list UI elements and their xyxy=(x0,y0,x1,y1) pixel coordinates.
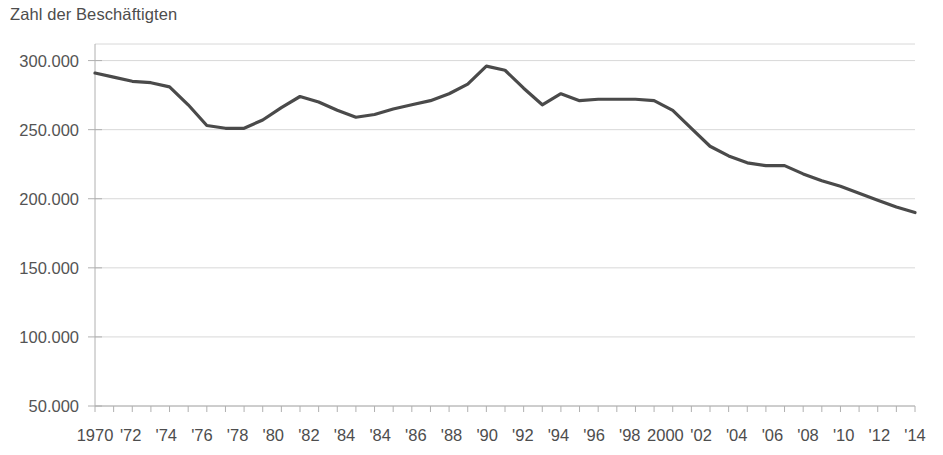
series-line xyxy=(95,66,915,212)
y-tick-label: 250.000 xyxy=(19,121,79,139)
y-tick-label: 50.000 xyxy=(29,397,79,415)
x-tick-label: '84 xyxy=(334,426,356,444)
x-tick-label: '86 xyxy=(405,426,427,444)
x-axis-ticks xyxy=(95,406,915,412)
x-tick-label: '10 xyxy=(833,426,855,444)
y-tick-label: 150.000 xyxy=(19,259,79,277)
x-tick-label: 1970 xyxy=(77,426,114,444)
x-tick-label: '08 xyxy=(797,426,819,444)
x-tick-label: '02 xyxy=(690,426,712,444)
x-tick-label: '06 xyxy=(762,426,784,444)
y-tick-label: 300.000 xyxy=(19,52,79,70)
x-tick-label: '96 xyxy=(583,426,605,444)
x-tick-label: '78 xyxy=(227,426,249,444)
line-chart: 50.000100.000150.000200.000250.000300.00… xyxy=(0,0,943,455)
x-tick-label: '90 xyxy=(476,426,498,444)
x-tick-label: '94 xyxy=(548,426,570,444)
data-series-employment xyxy=(95,66,915,212)
x-tick-label: '84 xyxy=(369,426,391,444)
axis-lines xyxy=(95,44,915,406)
x-tick-label: '88 xyxy=(441,426,463,444)
gridlines xyxy=(95,44,915,406)
x-tick-label: '82 xyxy=(298,426,320,444)
y-tick-label: 100.000 xyxy=(19,328,79,346)
x-tick-label: '14 xyxy=(904,426,926,444)
x-tick-label: '80 xyxy=(263,426,285,444)
x-tick-label: '92 xyxy=(512,426,534,444)
x-tick-label: '74 xyxy=(156,426,178,444)
x-tick-label: 2000 xyxy=(647,426,684,444)
x-tick-label: '72 xyxy=(120,426,142,444)
chart-container: Zahl der Beschäftigten 50.000100.000150.… xyxy=(0,0,943,455)
x-axis-tick-labels: 1970'72'74'76'78'80'82'84'84'86'88'90'92… xyxy=(77,426,926,444)
x-tick-label: '98 xyxy=(619,426,641,444)
y-axis-tick-labels: 50.000100.000150.000200.000250.000300.00… xyxy=(19,52,102,415)
x-tick-label: '76 xyxy=(191,426,213,444)
x-tick-label: '04 xyxy=(726,426,748,444)
x-tick-label: '12 xyxy=(869,426,891,444)
y-tick-label: 200.000 xyxy=(19,190,79,208)
